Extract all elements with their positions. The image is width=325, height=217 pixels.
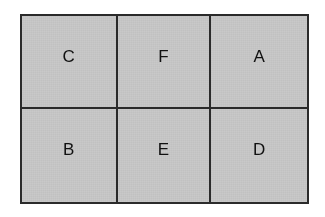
grid-cell-label: B bbox=[63, 141, 75, 158]
grid-cell-r1c1[interactable]: C bbox=[22, 16, 118, 109]
grid-cell-label: E bbox=[158, 141, 170, 158]
grid-diagram: C F A B E D bbox=[20, 14, 309, 204]
grid-cell-label: A bbox=[253, 48, 265, 65]
grid-cell-label: C bbox=[63, 48, 75, 65]
grid-cell-r1c3[interactable]: A bbox=[211, 16, 307, 109]
grid-cell-r2c3[interactable]: D bbox=[211, 109, 307, 202]
grid-cell-r2c2[interactable]: E bbox=[118, 109, 212, 202]
grid-cell-r1c2[interactable]: F bbox=[118, 16, 212, 109]
grid-cell-label: D bbox=[253, 141, 265, 158]
grid-cell-label: F bbox=[158, 48, 169, 65]
grid-cell-r2c1[interactable]: B bbox=[22, 109, 118, 202]
